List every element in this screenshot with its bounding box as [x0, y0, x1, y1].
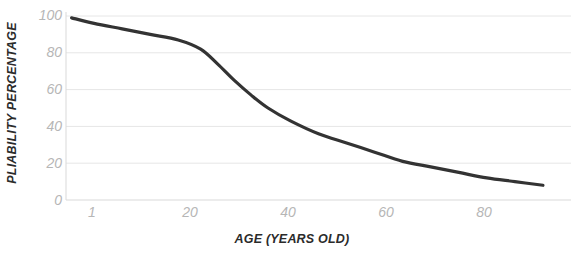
- x-tick-80: 80: [464, 205, 504, 219]
- pliability-vs-age-chart: PLIABILITY PERCENTAGE 0 20 40 60 80 100 …: [0, 0, 577, 266]
- x-tick-20: 20: [170, 205, 210, 219]
- x-tick-1: 1: [72, 205, 112, 219]
- x-tick-40: 40: [268, 205, 308, 219]
- x-axis-title: AGE (YEARS OLD): [66, 232, 518, 246]
- x-tick-60: 60: [366, 205, 406, 219]
- x-axis-tick-labels: 1 20 40 60 80: [0, 0, 577, 266]
